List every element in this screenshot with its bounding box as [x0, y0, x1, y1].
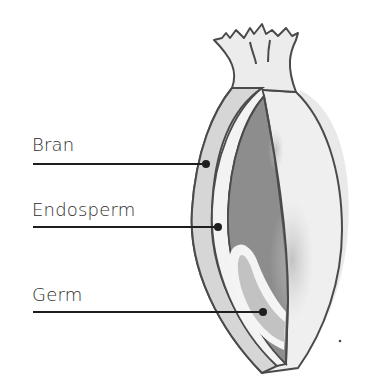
bran-leader-dot [202, 160, 210, 168]
endosperm-leader-dot [214, 223, 222, 231]
stray-dot [339, 340, 342, 343]
kernel-crown [214, 24, 298, 92]
label-germ: Germ [32, 284, 82, 305]
germ-leader-dot [259, 308, 267, 316]
label-endosperm: Endosperm [32, 199, 136, 220]
grain-diagram: Bran Endosperm Germ [0, 0, 378, 389]
label-bran: Bran [32, 134, 74, 155]
grain-kernel-illustration [0, 0, 378, 389]
